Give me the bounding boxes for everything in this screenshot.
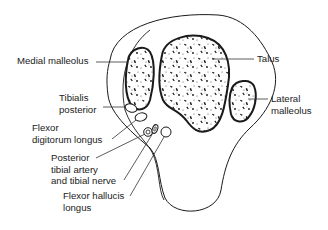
label-tibialis-posterior: Tibialis posterior	[59, 92, 96, 115]
flexor-hallucis-longus-tendon	[161, 127, 171, 137]
label-posterior-tibial-artery-nerve: Posterior tibial artery and tibial nerve	[51, 152, 116, 187]
posterior-tibial-neurovascular-bundle	[144, 124, 159, 136]
ankle-cross-section-diagram: Medial malleolus Talus Tibialis posterio…	[0, 0, 328, 230]
flexor-digitorum-longus-tendon	[134, 112, 148, 123]
talus-bone	[160, 36, 230, 132]
label-lateral-malleolus: Lateral malleolus	[271, 93, 312, 116]
label-talus: Talus	[257, 53, 279, 65]
label-flexor-digitorum-longus: Flexor digitorum longus	[32, 122, 102, 145]
medial-malleolus-bone	[126, 48, 154, 110]
label-flexor-hallucis-longus: Flexor hallucis longus	[63, 190, 124, 213]
label-medial-malleolus: Medial malleolus	[17, 55, 88, 67]
lateral-malleolus-bone	[230, 81, 256, 122]
